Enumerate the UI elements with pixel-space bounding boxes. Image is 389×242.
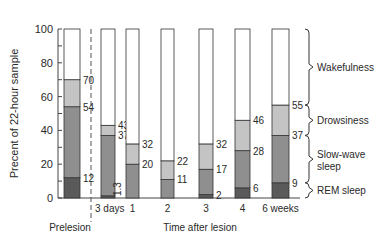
chart-canvas: 020406080100Precent of 22-hour sample125… xyxy=(0,0,389,242)
bar-segment-drowsiness xyxy=(161,161,174,180)
x-tick-label: 3 days xyxy=(95,203,124,214)
segment-value-label: 28 xyxy=(253,146,265,157)
segment-value-label: 11 xyxy=(177,174,188,185)
y-tick-label: 60 xyxy=(41,91,53,103)
bar-segment-drowsiness xyxy=(272,105,289,135)
brace-wakefulness xyxy=(305,29,313,105)
bar-segment-wakefulness xyxy=(126,29,139,144)
bar-segment-wakefulness xyxy=(161,29,174,161)
segment-value-label: 20 xyxy=(142,159,154,170)
segment-value-label: 9 xyxy=(292,178,298,189)
x-tick-label: 4 xyxy=(240,203,246,214)
segment-value-label: 70 xyxy=(83,75,95,86)
segment-value-label: 54 xyxy=(83,102,95,113)
legend-rem-sleep: REM sleep xyxy=(317,185,366,196)
bar-segment-slow-wave-sleep xyxy=(235,151,250,188)
x-tick-label: 3 xyxy=(203,203,209,214)
segment-value-label: 32 xyxy=(216,139,228,150)
bar-segment-wakefulness xyxy=(64,29,80,80)
x-tick-label: 6 weeks xyxy=(262,203,299,214)
segment-value-label: 12 xyxy=(83,173,95,184)
y-tick-label: 0 xyxy=(47,192,53,204)
segment-value-label: 32 xyxy=(142,139,154,150)
bar-segment-rem-sleep xyxy=(272,183,289,198)
sleep-wake-stacked-bar-chart: 020406080100Precent of 22-hour sample125… xyxy=(0,0,389,242)
segment-value-label: 6 xyxy=(253,183,259,194)
y-tick-label: 20 xyxy=(41,158,53,170)
segment-value-label: 2 xyxy=(216,190,222,201)
bar-segment-slow-wave-sleep xyxy=(199,169,213,194)
brace-rem-sleep xyxy=(305,183,313,198)
bar-segment-rem-sleep xyxy=(199,195,213,198)
segment-value-label: 22 xyxy=(177,156,189,167)
bar-segment-drowsiness xyxy=(101,125,115,135)
y-tick-label: 80 xyxy=(41,57,53,69)
bar-segment-drowsiness xyxy=(199,144,213,169)
bar-segment-slow-wave-sleep xyxy=(126,164,139,198)
segment-value-label: 55 xyxy=(292,100,304,111)
bar-segment-drowsiness xyxy=(64,80,80,107)
y-tick-label: 40 xyxy=(41,124,53,136)
legend-wakefulness: Wakefulness xyxy=(317,62,374,73)
legend-slow-wave-sleep-line2: sleep xyxy=(317,161,341,172)
x-tick-label: 1 xyxy=(130,203,136,214)
bar-segment-drowsiness xyxy=(235,120,250,150)
y-tick-label: 100 xyxy=(35,23,53,35)
brace-drowsiness xyxy=(305,105,313,135)
segment-value-label: 1.3 xyxy=(112,182,123,196)
bar-segment-wakefulness xyxy=(272,29,289,105)
y-axis-label: Precent of 22-hour sample xyxy=(8,49,20,179)
brace-slow-wave-sleep xyxy=(305,135,313,182)
bar-segment-wakefulness xyxy=(199,29,213,144)
bar-segment-drowsiness xyxy=(126,144,139,164)
legend-slow-wave-sleep-line1: Slow-wave xyxy=(317,149,366,160)
segment-value-label: 46 xyxy=(253,115,265,126)
legend-drowsiness: Drowsiness xyxy=(317,115,369,126)
bar-segment-rem-sleep xyxy=(235,188,250,198)
x-tick-label: 2 xyxy=(165,203,171,214)
x-axis-label: Time after lesion xyxy=(163,222,237,233)
bar-segment-wakefulness xyxy=(101,29,115,125)
segment-value-label: 17 xyxy=(216,164,228,175)
bar-segment-slow-wave-sleep xyxy=(272,135,289,182)
bar-segment-wakefulness xyxy=(235,29,250,120)
prelesion-label: Prelesion xyxy=(49,222,91,233)
bar-segment-slow-wave-sleep xyxy=(64,107,80,178)
segment-value-label: 37 xyxy=(292,130,304,141)
bar-segment-rem-sleep xyxy=(64,178,80,198)
bar-segment-slow-wave-sleep xyxy=(161,179,174,198)
